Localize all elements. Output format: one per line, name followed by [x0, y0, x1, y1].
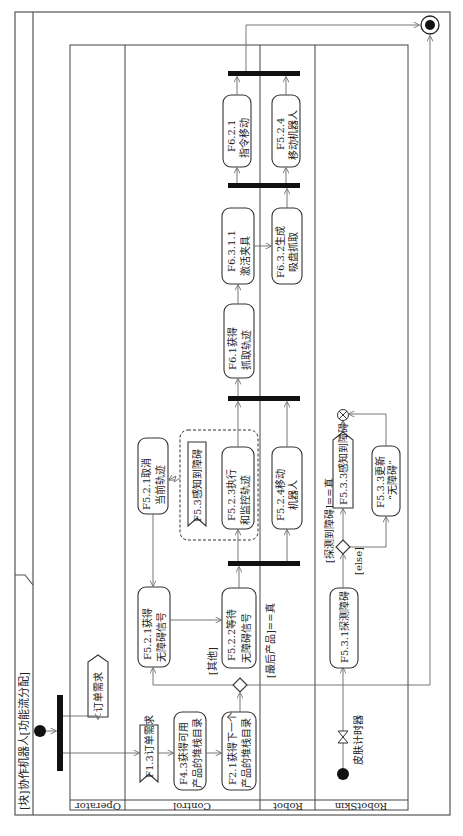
f522-label-line2: 无障碍信号	[240, 613, 252, 663]
f533-label: F5.3.3感知到障碍	[337, 423, 349, 505]
f53-label: F5.3感知到障碍	[191, 449, 203, 522]
f632-label-line2: 吸盘抓取	[287, 232, 299, 272]
f521-label-line2: 无障碍信号	[155, 612, 167, 662]
join-bar-3	[228, 396, 300, 401]
order-demand-label: 订单需求	[93, 672, 104, 712]
fork-bar-4	[228, 183, 300, 188]
f13-label: F1.3订单需求	[144, 715, 155, 778]
flow-join5-final	[246, 25, 419, 71]
f531-label: F5.3.1探测障碍	[338, 591, 350, 663]
guard-else: [else]	[353, 547, 364, 575]
f21-label-line2: 产品的堆栈目录	[240, 718, 252, 788]
f524b-label-line2: 移动机器人	[287, 110, 299, 160]
initial-node	[34, 725, 46, 737]
f523-label-line2: 和监控轨迹	[239, 475, 251, 525]
flow-update-flowfinal	[349, 414, 386, 446]
f533-update-line2: “无障碍”	[386, 460, 398, 500]
lane-label-operator: Operator	[75, 801, 121, 812]
fork-bar-start	[57, 695, 63, 771]
activity-diagram: [块]协作机器人[功能流分配] Operator Control Robot R…	[0, 0, 463, 836]
guard-other: [其他]	[206, 647, 218, 675]
f621-label-line1: F6.2.1	[226, 120, 237, 152]
diagram-title: [块]协作机器人[功能流分配]	[17, 672, 31, 810]
lane-label-robot: Robot	[273, 801, 303, 812]
final-node-core	[425, 20, 435, 30]
f523-label-line1: F5.2.3执行	[225, 469, 237, 521]
f524a-label-line2: 机器人	[287, 480, 299, 510]
title-tab-notch	[15, 575, 33, 585]
skin-timer-label: 皮肤计时器	[352, 715, 364, 765]
f61-label-line2: 抓取轨迹	[240, 330, 252, 370]
flow-else-update	[350, 517, 386, 547]
guard-last-product: [最后产品]==真	[264, 603, 276, 678]
f6311-label-line2: 激活夹具	[239, 236, 251, 276]
f21-label-line1: F2.1获得下一个	[227, 712, 238, 785]
f43-label-line1: F4.3获得可用	[178, 722, 189, 785]
join-bar-5	[228, 71, 300, 76]
decision-obstacle	[336, 540, 350, 554]
f521-cancel-line1: F5.2.1取消	[140, 458, 152, 510]
decision-last-product	[233, 678, 247, 692]
f43-label-line2: 产品的堆栈目录	[191, 718, 203, 788]
f621-label-line2: 指令移动	[238, 118, 250, 158]
f521-label-line1: F5.2.1获得	[142, 608, 153, 660]
lane-label-robotskin: RobotSkin	[334, 801, 387, 812]
robotskin-initial-node	[337, 768, 349, 780]
f6311-label-line1: F6.3.1.1	[226, 230, 237, 272]
lane-label-control: Control	[173, 801, 211, 812]
interrupt-edge	[169, 476, 180, 482]
f61-label-line1: F6.1获得	[227, 327, 238, 370]
f632-label-line1: F6.3.2生成	[274, 226, 286, 278]
f521-cancel-line2: 当前轨迹	[154, 465, 166, 505]
fork-bar-2	[228, 561, 300, 566]
hourglass-timer-icon	[338, 731, 348, 743]
f524b-label-line1: F5.2.4	[275, 118, 286, 150]
f533-update-line1: F5.3.3更新	[374, 456, 386, 508]
f524a-label-line1: F5.2.4移动	[274, 469, 286, 521]
f522-label-line1: F5.2.2等待	[225, 609, 237, 661]
